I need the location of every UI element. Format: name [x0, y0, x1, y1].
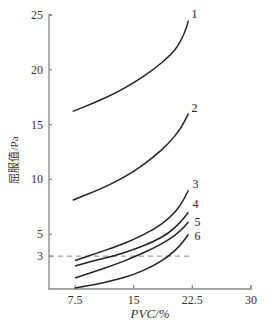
curve-label-4: 4 — [192, 197, 198, 211]
curve-label-5: 5 — [194, 215, 200, 229]
curve-label-6: 6 — [194, 229, 200, 243]
y-tick-label: 5 — [37, 227, 43, 241]
line-chart: 3510152025 7.51522.530 123456 PVC/% 屈服值/… — [0, 0, 269, 328]
x-tick-label: 22.5 — [182, 293, 203, 307]
x-tick-label: 7.5 — [68, 293, 83, 307]
x-axis-label: PVC/% — [130, 306, 170, 321]
y-tick-label: 25 — [31, 8, 43, 22]
x-tick-label: 30 — [245, 293, 257, 307]
curves: 123456 — [73, 7, 201, 287]
curve-2 — [73, 114, 189, 201]
curve-label-1: 1 — [191, 7, 197, 21]
y-tick-label: 3 — [37, 249, 43, 263]
y-axis — [49, 15, 251, 289]
y-tick-label: 15 — [31, 118, 43, 132]
curve-1 — [73, 21, 189, 112]
y-axis-label: 屈服值/Pa — [8, 136, 20, 183]
curve-label-2: 2 — [191, 101, 197, 115]
axes — [49, 15, 251, 289]
y-tick-label: 10 — [31, 172, 43, 186]
curve-label-3: 3 — [192, 177, 198, 191]
x-tick-label: 15 — [128, 293, 140, 307]
y-tick-label: 20 — [31, 63, 43, 77]
x-ticks: 7.51522.530 — [68, 285, 258, 307]
